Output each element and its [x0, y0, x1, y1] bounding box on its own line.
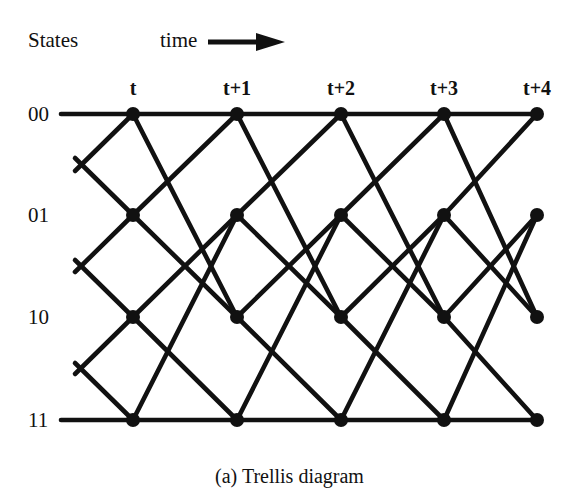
edge-tp3-11-to-01 [444, 215, 537, 420]
trellis-node-11-tp3 [437, 413, 451, 427]
edge-tp1-01-to-00 [237, 114, 341, 215]
trellis-node-10-tp4 [530, 310, 544, 324]
trellis-node-01-tp3 [437, 208, 451, 222]
time-label-t: t [130, 78, 137, 98]
trellis-node-11-tp2 [334, 413, 348, 427]
edge-tp1-11-to-01 [237, 215, 341, 420]
edge-t-11-to-01 [133, 215, 237, 420]
trellis-node-11-tp4 [530, 413, 544, 427]
figure-caption: (a) Trellis diagram [0, 466, 579, 486]
trellis-edges [133, 114, 537, 420]
trellis-figure: States time tt+1t+2t+3t+4 00011011 (a) T… [0, 0, 579, 500]
trellis-node-11-t [126, 413, 140, 427]
left-stub-11-up-left [75, 363, 133, 420]
state-label-00: 00 [28, 104, 49, 125]
time-label-tp2: t+2 [327, 78, 355, 98]
time-label-tp3: t+3 [430, 78, 458, 98]
trellis-node-11-tp1 [230, 413, 244, 427]
left-stub-01-up-left [75, 158, 133, 215]
edge-tp3-10-to-11 [444, 317, 537, 420]
trellis-node-10-tp3 [437, 310, 451, 324]
trellis-left-stubs [61, 114, 133, 420]
trellis-node-00-tp4 [530, 107, 544, 121]
left-stub-00-down-left [75, 114, 133, 171]
edge-tp2-10-to-11 [341, 317, 444, 420]
trellis-node-00-t [126, 107, 140, 121]
trellis-node-10-tp1 [230, 310, 244, 324]
edge-t-00-to-10 [133, 114, 237, 317]
state-label-11: 11 [28, 410, 48, 431]
edge-t-01-to-00 [133, 114, 237, 215]
trellis-node-10-t [126, 310, 140, 324]
edge-tp2-11-to-01 [341, 215, 444, 420]
edge-t-10-to-11 [133, 317, 237, 420]
trellis-node-00-tp2 [334, 107, 348, 121]
edge-tp3-01-to-00 [444, 114, 537, 215]
left-stub-10-up-left [75, 260, 133, 317]
time-label-tp1: t+1 [223, 78, 251, 98]
trellis-node-10-tp2 [334, 310, 348, 324]
edge-tp2-01-to-00 [341, 114, 444, 215]
state-label-01: 01 [28, 205, 49, 226]
trellis-node-01-tp4 [530, 208, 544, 222]
trellis-node-01-tp2 [334, 208, 348, 222]
trellis-node-01-t [126, 208, 140, 222]
edge-tp1-10-to-11 [237, 317, 341, 420]
trellis-node-01-tp1 [230, 208, 244, 222]
edge-tp1-00-to-10 [237, 114, 341, 317]
trellis-node-00-tp1 [230, 107, 244, 121]
left-stub-01-down-left [75, 215, 133, 272]
left-stub-10-down-left [75, 317, 133, 374]
trellis-graph [0, 0, 579, 500]
trellis-node-00-tp3 [437, 107, 451, 121]
edge-tp2-00-to-10 [341, 114, 444, 317]
edge-tp3-00-to-10 [444, 114, 537, 317]
time-label-tp4: t+4 [523, 78, 551, 98]
state-label-10: 10 [28, 307, 49, 328]
